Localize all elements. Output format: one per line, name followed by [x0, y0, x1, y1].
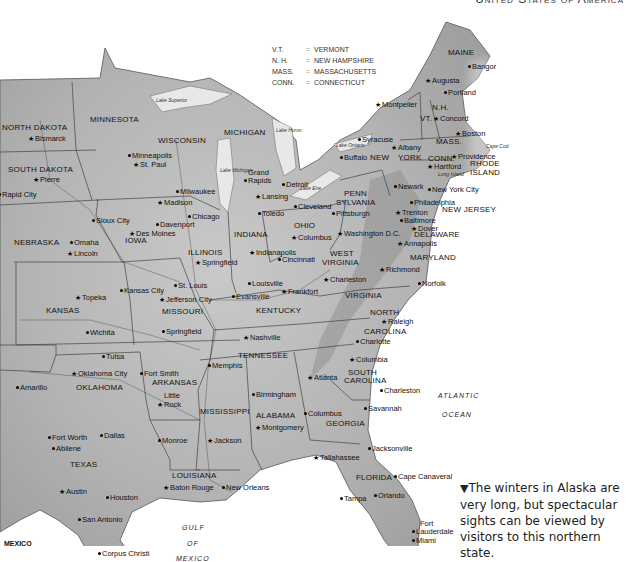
- city-dot-icon: [394, 185, 397, 188]
- city-label: Des Moines: [136, 230, 176, 238]
- state-label: MISSOURI: [162, 308, 203, 316]
- capital-star-icon: ★: [427, 163, 433, 170]
- capital-star-icon: ★: [195, 259, 201, 266]
- city-dot-icon: [16, 386, 19, 389]
- city-label: Jackson: [214, 437, 242, 445]
- city-label: Madison: [164, 199, 192, 207]
- state-label: OKLAHOMA: [76, 384, 123, 392]
- capital-star-icon: ★: [207, 437, 213, 444]
- city-dot-icon: [340, 497, 343, 500]
- city-dot-icon: [340, 156, 343, 159]
- city-dot-icon: [98, 552, 101, 555]
- caption-text: The winters in Alaska are very long, but…: [460, 481, 620, 560]
- legend-abbr: CONN.: [272, 79, 306, 86]
- legend-equals: =: [306, 79, 314, 86]
- capital-star-icon: ★: [75, 294, 81, 301]
- state-label: SOUTH DAKOTA: [8, 166, 73, 174]
- city-label: Corpus Christi: [102, 550, 150, 558]
- city-label: Oklahoma City: [78, 370, 127, 378]
- photo-caption: ▼The winters in Alaska are very long, bu…: [460, 480, 628, 561]
- city-label: Portland: [448, 89, 476, 97]
- state-label: IOWA: [125, 237, 147, 245]
- city-label: New Orleans: [226, 484, 269, 492]
- city-label: New York City: [432, 186, 479, 194]
- city-dot-icon: [400, 219, 403, 222]
- city-dot-icon: [358, 138, 361, 141]
- city-dot-icon: [410, 201, 413, 204]
- capital-star-icon: ★: [157, 401, 163, 408]
- capital-star-icon: ★: [33, 176, 39, 183]
- city-label: Providence: [458, 153, 496, 161]
- capital-star-icon: ★: [433, 115, 439, 122]
- lake-label: Lake Michigan: [220, 168, 252, 173]
- city-dot-icon: [106, 496, 109, 499]
- legend-equals: =: [306, 57, 314, 64]
- city-label: Rapid City: [2, 191, 37, 199]
- state-label: CAROLINA: [364, 328, 407, 336]
- capital-star-icon: ★: [323, 276, 329, 283]
- state-label: ISLAND: [470, 169, 500, 177]
- city-label: Milwaukee: [180, 188, 215, 196]
- city-dot-icon: [158, 439, 161, 442]
- state-label: LOUISIANA: [172, 472, 216, 480]
- capital-star-icon: ★: [249, 249, 255, 256]
- capital-star-icon: ★: [391, 144, 397, 151]
- city-label: Springfield: [166, 328, 201, 336]
- city-label: Norfolk: [422, 280, 446, 288]
- state-label: NORTH DAKOTA: [2, 124, 67, 132]
- city-label: Rapids: [248, 177, 271, 185]
- state-label: WEST: [330, 250, 354, 258]
- capital-star-icon: ★: [157, 199, 163, 206]
- city-dot-icon: [332, 212, 335, 215]
- city-dot-icon: [70, 241, 73, 244]
- city-dot-icon: [208, 364, 211, 367]
- city-label: Tallahassee: [320, 454, 360, 462]
- city-label: Hartford: [434, 163, 461, 171]
- capital-star-icon: ★: [71, 370, 77, 377]
- lake-label: Lake Erie: [300, 186, 321, 191]
- state-label: ALABAMA: [256, 412, 295, 420]
- state-label: MISSISSIPPI: [200, 408, 250, 416]
- lake-label: Lake Ontario: [336, 143, 365, 148]
- legend-row: CONN. = CONNECTICUT: [272, 77, 376, 88]
- city-dot-icon: [380, 389, 383, 392]
- capital-star-icon: ★: [281, 288, 287, 295]
- state-label: ILLINOIS: [188, 249, 223, 257]
- city-dot-icon: [244, 179, 247, 182]
- water-label: MEXICO: [176, 555, 210, 562]
- capital-star-icon: ★: [375, 101, 381, 108]
- capital-star-icon: ★: [133, 161, 139, 168]
- state-label: ARKANSAS: [152, 379, 197, 387]
- capital-star-icon: ★: [28, 135, 34, 142]
- city-label: Orlando: [378, 492, 405, 500]
- legend-row: MASS. = MASSACHUSETTS: [272, 66, 376, 77]
- capital-star-icon: ★: [59, 488, 65, 495]
- city-dot-icon: [188, 215, 191, 218]
- capital-star-icon: ★: [291, 234, 297, 241]
- legend-row: V.T. = VERMONT: [272, 44, 376, 55]
- city-dot-icon: [282, 183, 285, 186]
- city-label: Jefferson City: [166, 296, 212, 304]
- legend-abbr: V.T.: [272, 46, 306, 53]
- city-dot-icon: [140, 372, 143, 375]
- state-label: SYLVANIA: [336, 199, 376, 207]
- capital-star-icon: ★: [397, 240, 403, 247]
- capital-star-icon: ★: [425, 77, 431, 84]
- capital-star-icon: ★: [243, 334, 249, 341]
- city-dot-icon: [258, 212, 261, 215]
- city-label: Sioux City: [96, 217, 130, 225]
- city-label: Charleston: [384, 387, 420, 395]
- capital-star-icon: ★: [451, 153, 457, 160]
- city-label: Amarillo: [20, 384, 47, 392]
- city-label: Pittsburgh: [336, 210, 370, 218]
- city-dot-icon: [248, 282, 251, 285]
- city-label: Wichita: [90, 329, 115, 337]
- state-label: NEW: [370, 154, 389, 162]
- capital-star-icon: ★: [379, 266, 385, 273]
- city-dot-icon: [412, 530, 415, 533]
- capital-star-icon: ★: [255, 424, 261, 431]
- city-label: Charleston: [330, 276, 366, 284]
- city-label: Louisville: [252, 280, 283, 288]
- capital-star-icon: ★: [381, 318, 387, 325]
- city-label: Minneapolis: [132, 152, 172, 160]
